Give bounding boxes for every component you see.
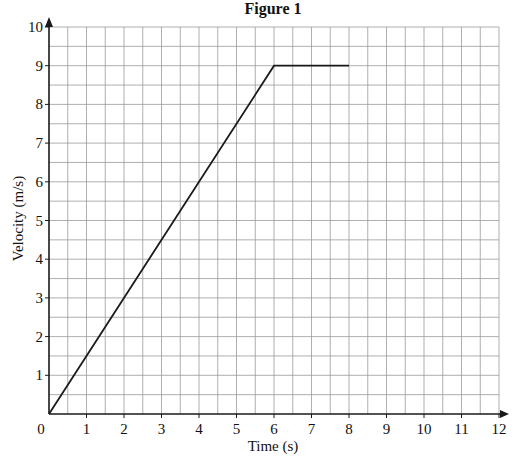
x-tick-label: 10 <box>417 421 432 437</box>
x-tick-label: 4 <box>195 421 203 437</box>
x-tick-label: 1 <box>83 421 91 437</box>
x-axis-label: Time (s) <box>0 438 518 455</box>
grid <box>49 27 499 414</box>
y-tick-label: 10 <box>28 19 43 35</box>
x-tick-label: 11 <box>454 421 468 437</box>
x-tick-label: 0 <box>37 421 45 437</box>
x-tick-label: 7 <box>308 421 316 437</box>
chart-plot-area: 012345678910111212345678910 <box>0 0 518 467</box>
x-tick-label: 3 <box>158 421 166 437</box>
y-tick-label: 3 <box>36 290 44 306</box>
y-tick-label: 9 <box>36 58 44 74</box>
x-tick-label: 9 <box>383 421 391 437</box>
x-tick-label: 8 <box>345 421 353 437</box>
axes <box>45 17 509 418</box>
y-tick-label: 2 <box>36 329 44 345</box>
x-tick-label: 2 <box>120 421 128 437</box>
x-tick-label: 6 <box>270 421 278 437</box>
y-tick-label: 8 <box>36 96 44 112</box>
y-tick-label: 7 <box>36 135 44 151</box>
y-tick-label: 6 <box>36 174 44 190</box>
x-tick-label: 12 <box>492 421 507 437</box>
y-axis-arrow-icon <box>45 17 53 27</box>
y-axis-label: Velocity (m/s) <box>10 149 27 289</box>
tick-labels: 012345678910111212345678910 <box>28 19 507 437</box>
y-tick-label: 5 <box>36 213 44 229</box>
x-axis-label-text: Time (s) <box>248 438 299 454</box>
x-axis-arrow-icon <box>500 410 509 418</box>
y-tick-label: 4 <box>36 251 44 267</box>
x-tick-label: 5 <box>233 421 241 437</box>
y-tick-label: 1 <box>36 367 44 383</box>
